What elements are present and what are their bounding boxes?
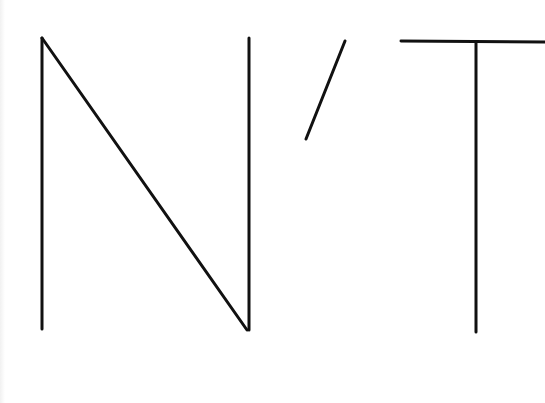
letters-svg [0, 0, 545, 403]
letter-n-glyph [42, 38, 249, 330]
letter-t-glyph [401, 41, 545, 332]
glyph-stroke [401, 41, 545, 42]
apostrophe-glyph [306, 41, 345, 139]
glyph-stroke [306, 41, 345, 139]
glyph-stroke [42, 38, 247, 330]
letter-graphic-canvas: N’T [0, 0, 545, 403]
